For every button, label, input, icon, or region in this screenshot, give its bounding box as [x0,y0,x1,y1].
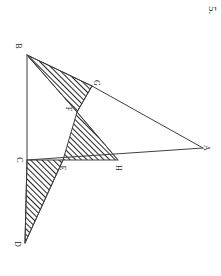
vertex-label-H: H [114,165,122,171]
segment-G-A [92,86,203,148]
geometry-figure [0,0,221,276]
vertex-label-A: A [202,145,210,151]
vertex-label-B: B [14,43,22,48]
vertex-label-F: F [64,107,72,111]
vertex-label-G: G [92,80,100,86]
shaded-regions [25,55,118,243]
vertex-label-E: E [58,166,66,171]
figure-lines [25,55,203,243]
vertex-label-C: C [15,157,23,162]
triangle-F-H-E [63,112,118,160]
vertex-label-D: D [13,241,21,247]
